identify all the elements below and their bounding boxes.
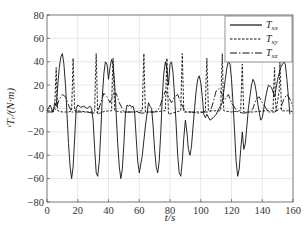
x-tick-label: 40 — [103, 205, 114, 216]
y-tick-label: −20 — [28, 126, 44, 137]
x-tick-label: 120 — [224, 205, 240, 216]
y-axis-label: ᶜTᵣ/(N·m) — [4, 88, 17, 128]
line-chart: 020406080100120140160 −80−60−40−20020406… — [0, 0, 307, 238]
y-tick-label: 20 — [34, 80, 45, 91]
x-axis-label: t/s — [165, 211, 175, 223]
y-tick-label: −80 — [28, 197, 44, 208]
y-tick-label: −60 — [28, 173, 44, 184]
x-tick-label: 20 — [73, 205, 84, 216]
legend-sub-txz: xz — [271, 52, 278, 60]
y-tick-labels: −80−60−40−20020406080 — [28, 10, 44, 208]
x-tick-label: 0 — [44, 205, 49, 216]
series-t-xx — [47, 54, 290, 179]
y-tick-label: 80 — [34, 10, 45, 21]
legend-sub-txx: xx — [271, 24, 279, 32]
x-tick-label: 140 — [254, 205, 270, 216]
x-tick-label: 160 — [285, 205, 301, 216]
y-tick-label: 0 — [39, 103, 44, 114]
legend: Txx Txy Txz — [225, 16, 292, 62]
y-tick-label: 40 — [34, 56, 45, 67]
y-tick-label: −40 — [28, 150, 44, 161]
y-tick-label: 60 — [34, 33, 45, 44]
x-tick-label: 60 — [134, 205, 145, 216]
legend-sub-txy: xy — [271, 38, 279, 46]
x-tick-label: 100 — [193, 205, 209, 216]
